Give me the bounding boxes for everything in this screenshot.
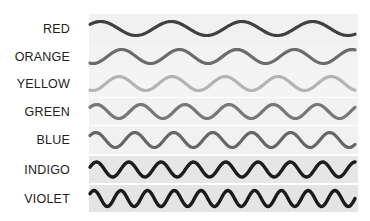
- sine-wave-red: [89, 14, 358, 43]
- sine-wave-yellow: [89, 70, 358, 97]
- wave-row-red: RED: [0, 14, 370, 43]
- wave-label: VIOLET: [24, 192, 70, 206]
- wave-band: [89, 14, 358, 43]
- wave-band: [89, 43, 358, 70]
- wave-band: [89, 185, 358, 212]
- wave-label: ORANGE: [15, 50, 70, 64]
- wave-label: BLUE: [37, 133, 70, 147]
- sine-wave-orange: [89, 43, 358, 70]
- sine-wave-green: [89, 98, 358, 125]
- sine-wave-indigo: [89, 156, 358, 183]
- sine-wave-violet: [89, 185, 358, 212]
- wave-label: RED: [43, 22, 70, 36]
- visible-spectrum-waves-diagram: REDORANGEYELLOWGREENBLUEINDIGOVIOLET: [0, 0, 370, 221]
- wave-row-yellow: YELLOW: [0, 70, 370, 97]
- wave-band: [89, 126, 358, 154]
- wave-band: [89, 156, 358, 183]
- wave-label: GREEN: [25, 105, 70, 119]
- wave-row-violet: VIOLET: [0, 185, 370, 212]
- wave-label: YELLOW: [17, 77, 70, 91]
- wave-band: [89, 70, 358, 97]
- wave-row-orange: ORANGE: [0, 43, 370, 70]
- wave-label: INDIGO: [24, 163, 70, 177]
- wave-row-blue: BLUE: [0, 126, 370, 154]
- sine-wave-blue: [89, 126, 358, 154]
- wave-row-indigo: INDIGO: [0, 156, 370, 183]
- wave-band: [89, 98, 358, 125]
- wave-row-green: GREEN: [0, 98, 370, 125]
